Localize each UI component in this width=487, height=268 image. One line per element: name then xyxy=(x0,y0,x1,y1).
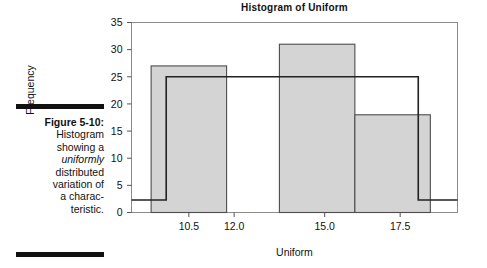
x-tick-label: 10.5 xyxy=(179,220,200,232)
y-tick-label: 20 xyxy=(111,98,123,110)
y-tick-label: 25 xyxy=(111,71,123,83)
y-tick-label: 35 xyxy=(111,16,123,28)
x-axis: 10.512.015.017.5 xyxy=(179,213,411,232)
plot-canvas: 05101520253035 10.512.015.017.5 xyxy=(0,0,487,268)
y-tick-label: 0 xyxy=(117,206,123,218)
x-tick-label: 17.5 xyxy=(390,220,411,232)
histogram-bars xyxy=(151,44,430,212)
x-tick-label: 12.0 xyxy=(224,220,245,232)
y-tick-label: 15 xyxy=(111,125,123,137)
histogram-bar xyxy=(151,66,226,213)
histogram-bar xyxy=(279,44,354,212)
y-axis: 05101520253035 xyxy=(111,16,132,218)
y-tick-label: 5 xyxy=(117,179,123,191)
y-tick-label: 30 xyxy=(111,43,123,55)
x-tick-label: 15.0 xyxy=(314,220,335,232)
histogram-chart: Histogram of Uniform Frequency Uniform 0… xyxy=(0,0,487,268)
y-tick-label: 10 xyxy=(111,152,123,164)
